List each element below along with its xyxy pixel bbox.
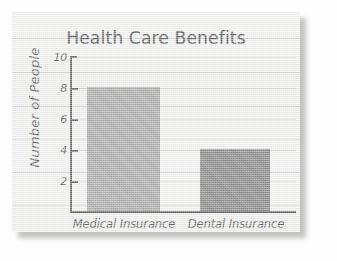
- x-label-dental-insurance: Dental Insurance: [174, 217, 298, 231]
- bar-chart: Health Care Benefits Number of People: [12, 12, 300, 232]
- y-tick-label-10: 10: [47, 51, 67, 64]
- chart-panel: Health Care Benefits Number of People: [12, 12, 300, 232]
- x-label-medical-insurance: Medical Insurance: [60, 217, 188, 231]
- y-tick-4: [70, 150, 78, 152]
- y-tick-label-10-wrap: 10: [45, 51, 67, 63]
- screenshot-root: Health Care Benefits Number of People: [0, 0, 337, 261]
- y-tick-label-4: 4: [47, 144, 67, 157]
- y-tick-8: [70, 88, 78, 90]
- y-axis-top-cap: [70, 56, 77, 58]
- y-tick-label-6: 6: [47, 113, 67, 126]
- bar-dental-insurance: [200, 149, 270, 211]
- y-tick-label-2: 2: [47, 175, 67, 188]
- y-tick-label-2-wrap: 2: [45, 175, 67, 187]
- x-axis-line: [70, 211, 296, 213]
- bar-texture: [200, 149, 270, 211]
- y-tick-label-6-wrap: 6: [45, 113, 67, 125]
- y-tick-label-4-wrap: 4: [45, 144, 67, 156]
- y-tick-6: [70, 119, 78, 121]
- y-tick-2: [70, 181, 78, 183]
- chart-title: Health Care Benefits: [12, 28, 300, 48]
- gridline-10: [72, 57, 296, 58]
- bar-texture: [87, 87, 160, 211]
- y-tick-label-8: 8: [47, 82, 67, 95]
- y-tick-label-8-wrap: 8: [45, 82, 67, 94]
- bar-medical-insurance: [87, 87, 160, 211]
- y-axis-line: [70, 56, 72, 212]
- y-axis-title: Number of People: [27, 38, 42, 178]
